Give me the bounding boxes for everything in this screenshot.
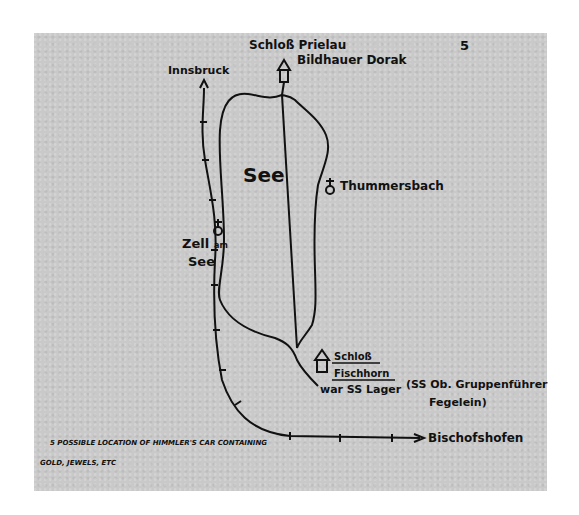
label-schloss-fischhorn-2: Fischhorn [334, 368, 389, 379]
church-icon [214, 219, 222, 235]
label-zell: Zell [182, 236, 209, 251]
label-schloss-fischhorn-1: Schloß [334, 351, 372, 362]
hand-drawn-map: See Schloß Prielau Bildhauer Dorak Innsb… [0, 0, 579, 515]
house-icon [315, 350, 329, 372]
page-mark: 5 [460, 38, 469, 53]
label-schloss-prielau: Schloß Prielau [249, 38, 346, 52]
church-icon [326, 178, 334, 194]
label-bischofshofen: Bischofshofen [428, 431, 523, 445]
lake-outline [219, 94, 328, 386]
label-fegelein-2: Fegelein) [429, 396, 487, 409]
label-bildhauer-dorak: Bildhauer Dorak [297, 53, 408, 67]
label-thummersbach: Thummersbach [340, 179, 444, 193]
lake-label: See [243, 163, 285, 187]
house-icon [278, 60, 290, 82]
label-am: am [214, 241, 228, 250]
arrow-icon [200, 80, 208, 88]
label-fegelein-1: (SS Ob. Gruppenführer [406, 378, 548, 391]
footnote-line-1: 5 POSSIBLE LOCATION OF HIMMLER'S CAR CON… [50, 439, 267, 447]
label-ss-lager: war SS Lager [320, 383, 402, 396]
label-see: See [188, 254, 215, 269]
footnote-line-2: GOLD, JEWELS, ETC [40, 459, 117, 467]
label-innsbruck: Innsbruck [168, 64, 230, 77]
